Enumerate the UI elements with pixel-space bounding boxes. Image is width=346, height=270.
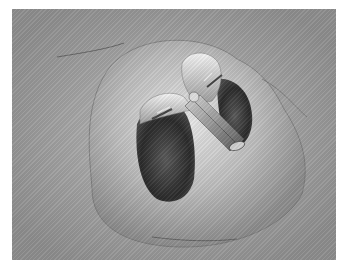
- leaflet-left: [140, 93, 194, 124]
- clip-device: [152, 73, 246, 152]
- opening-left: [136, 107, 194, 202]
- tissue-ring: [89, 40, 305, 247]
- anatomy-illustration: [12, 9, 336, 260]
- opening-right: [217, 79, 252, 147]
- leaflet-right: [182, 53, 221, 104]
- illustration-frame: [12, 9, 336, 260]
